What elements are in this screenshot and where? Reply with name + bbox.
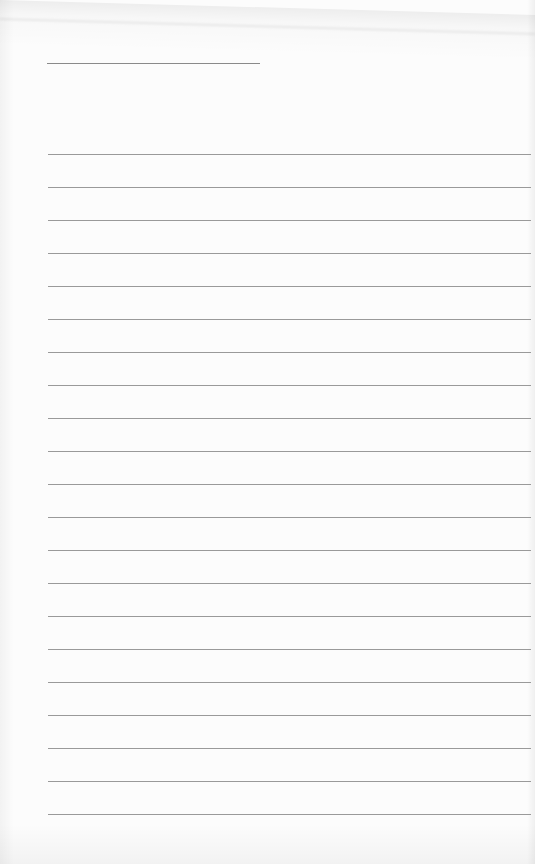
ruled-line xyxy=(48,814,531,815)
ruled-line xyxy=(48,484,531,485)
ruled-line xyxy=(48,550,531,551)
ruled-line xyxy=(48,682,531,683)
ruled-line xyxy=(48,319,531,320)
title-line xyxy=(47,63,260,64)
ruled-line xyxy=(48,187,531,188)
ruled-line xyxy=(48,748,531,749)
paper-sheet xyxy=(0,0,535,864)
ruled-line xyxy=(48,583,531,584)
ruled-line xyxy=(48,715,531,716)
ruled-line xyxy=(48,781,531,782)
ruled-line xyxy=(48,616,531,617)
ruled-line xyxy=(48,517,531,518)
ruled-line xyxy=(48,649,531,650)
ruled-line xyxy=(48,220,531,221)
ruled-line xyxy=(48,286,531,287)
ruled-line xyxy=(48,253,531,254)
ruled-line xyxy=(48,385,531,386)
ruled-line xyxy=(48,154,531,155)
ruled-line xyxy=(48,352,531,353)
ruled-line xyxy=(48,451,531,452)
ruled-line xyxy=(48,418,531,419)
